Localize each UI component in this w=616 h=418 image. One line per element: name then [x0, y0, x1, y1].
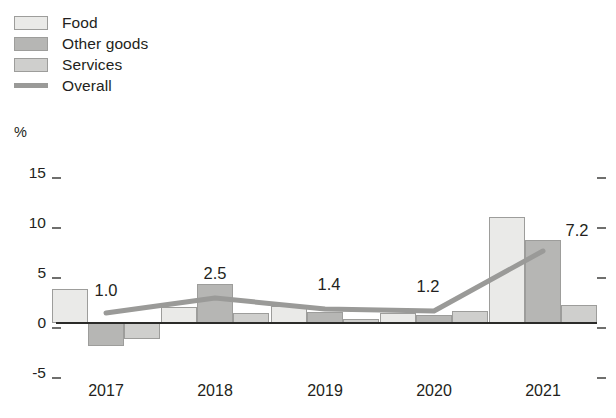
y-axis-tick-mark-left	[52, 177, 61, 179]
bar-food-2021	[489, 217, 525, 323]
y-axis-tick-mark-left	[52, 277, 61, 279]
y-axis-tick-mark-left	[52, 377, 61, 379]
legend-label: Overall	[62, 78, 112, 94]
legend-label: Other goods	[62, 36, 148, 52]
y-axis-tick-label: -5	[10, 364, 46, 382]
data-label-2019: 1.4	[318, 275, 341, 294]
y-axis-tick-label: 0	[10, 314, 46, 332]
bar-other-goods-2017	[88, 323, 124, 346]
y-axis-tick-label: 5	[10, 264, 46, 282]
y-axis-tick-label: 10	[10, 214, 46, 232]
x-axis-tick-label: 2017	[88, 382, 124, 400]
zero-baseline	[56, 322, 597, 324]
legend-color-swatch	[14, 16, 48, 30]
y-axis-unit-label: %	[14, 124, 27, 140]
legend-item-services[interactable]: Services	[14, 54, 274, 75]
x-axis-tick-label: 2021	[525, 382, 561, 400]
bar-food-2019	[271, 306, 307, 323]
data-label-2018: 2.5	[204, 264, 227, 283]
bar-services-2021	[561, 305, 597, 323]
bar-other-goods-2018	[197, 284, 233, 323]
legend-label: Food	[62, 15, 98, 31]
legend-item-food[interactable]: Food	[14, 12, 274, 33]
legend-line-marker	[14, 79, 48, 93]
legend-label: Services	[62, 57, 122, 73]
inflation-contribution-chart: FoodOther goodsServicesOverall % 151050-…	[0, 0, 616, 418]
data-label-2017: 1.0	[95, 281, 118, 300]
y-axis-tick-mark-right	[597, 327, 606, 329]
y-axis-tick-mark-left	[52, 327, 61, 329]
legend-item-overall[interactable]: Overall	[14, 75, 274, 96]
x-axis-tick-label: 2019	[307, 382, 343, 400]
x-axis-tick-label: 2020	[416, 382, 452, 400]
y-axis-tick-mark-left	[52, 227, 61, 229]
y-axis-tick-mark-right	[597, 177, 606, 179]
bar-services-2017	[124, 323, 160, 339]
bar-food-2017	[52, 289, 88, 323]
y-axis-tick-mark-right	[597, 277, 606, 279]
legend-item-other-goods[interactable]: Other goods	[14, 33, 274, 54]
bar-food-2018	[161, 307, 197, 323]
legend-color-swatch	[14, 37, 48, 51]
y-axis-tick-mark-right	[597, 377, 606, 379]
x-axis-tick-label: 2018	[197, 382, 233, 400]
data-label-2021: 7.2	[566, 221, 589, 240]
legend-color-swatch	[14, 58, 48, 72]
y-axis-tick-label: 15	[10, 164, 46, 182]
y-axis-tick-mark-right	[597, 227, 606, 229]
bar-other-goods-2021	[525, 240, 561, 323]
chart-legend: FoodOther goodsServicesOverall	[14, 12, 274, 96]
data-label-2020: 1.2	[417, 277, 440, 296]
